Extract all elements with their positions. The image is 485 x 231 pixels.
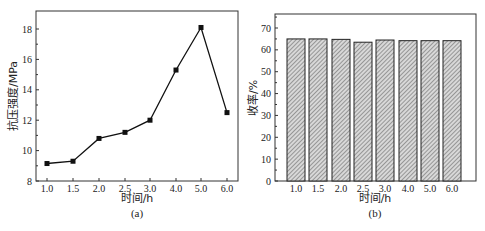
y-tick-label: 12 [22, 115, 32, 126]
y-axis-label-b: 收率/% [246, 80, 260, 116]
data-point-marker [174, 68, 179, 73]
bar [376, 40, 394, 181]
y-tick-label: 50 [261, 66, 271, 77]
caption-a: (a) [131, 207, 144, 220]
bar [399, 41, 417, 181]
data-point-marker [225, 110, 230, 115]
x-tick-label: 1.0 [290, 183, 303, 194]
data-markers [45, 25, 230, 166]
y-tick-label: 60 [261, 44, 271, 55]
y-tick-label: 70 [261, 23, 271, 34]
y-tick-label: 16 [22, 54, 32, 65]
x-tick-label: 4.0 [170, 183, 183, 194]
bar [354, 42, 372, 181]
x-tick-label: 2.0 [93, 183, 106, 194]
y-tick-label: 14 [22, 84, 32, 95]
bar [332, 39, 350, 181]
data-point-marker [123, 130, 128, 135]
bar [309, 39, 327, 181]
data-point-marker [148, 118, 153, 123]
bar [421, 41, 439, 181]
bar-chart-panel-b: 010203040506070 1.01.52.02.53.04.05.06.0… [246, 14, 476, 220]
y-tick-label: 40 [261, 88, 271, 99]
y-tick-label: 8 [27, 176, 32, 187]
bar [443, 41, 461, 181]
plot-frame-a [36, 11, 238, 181]
x-tick-label: 5.0 [195, 183, 208, 194]
data-line [47, 28, 227, 164]
y-tick-label: 20 [261, 132, 271, 143]
caption-b: (b) [369, 207, 382, 220]
y-tick-label: 18 [22, 24, 32, 35]
x-tick-label: 6.0 [446, 183, 459, 194]
data-point-marker [71, 159, 76, 164]
line-chart-panel-a: 81012141618 1.01.52.02.53.04.05.06.0 抗压强… [6, 11, 238, 220]
x-tick-label: 5.0 [424, 183, 437, 194]
y-tick-label: 0 [266, 176, 271, 187]
data-point-marker [45, 161, 50, 166]
x-axis-label-a: 时间/h [121, 192, 154, 205]
y-tick-label: 10 [261, 154, 271, 165]
x-tick-label: 2.0 [335, 183, 348, 194]
data-point-marker [97, 136, 102, 141]
x-tick-label: 4.0 [402, 183, 415, 194]
x-tick-label: 1.0 [41, 183, 54, 194]
bars [287, 39, 461, 181]
figure: 81012141618 1.01.52.02.53.04.05.06.0 抗压强… [0, 0, 485, 231]
x-tick-label: 1.5 [312, 183, 325, 194]
data-point-marker [199, 25, 204, 30]
x-axis-label-b: 时间/h [359, 192, 392, 205]
x-tick-label: 6.0 [221, 183, 234, 194]
y-tick-label: 10 [22, 145, 32, 156]
x-tick-label: 1.5 [67, 183, 80, 194]
bar [287, 39, 305, 181]
y-axis-label-a: 抗压强度/MPa [6, 61, 20, 131]
y-tick-label: 30 [261, 110, 271, 121]
